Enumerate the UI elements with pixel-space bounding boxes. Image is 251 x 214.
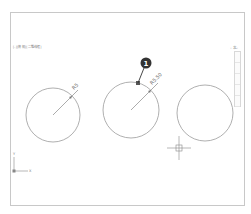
left-radius-line	[53, 96, 72, 115]
left-circle[interactable]: R5	[26, 82, 80, 142]
ucs-x-label: X	[29, 169, 32, 173]
crosshair-cursor-icon	[167, 136, 191, 160]
left-dimension-text[interactable]: R5	[70, 82, 79, 91]
ucs-y-label: Y	[13, 152, 16, 156]
middle-dimension-text[interactable]: R5.50	[148, 71, 163, 86]
middle-circle[interactable]: R5.50	[103, 71, 163, 138]
middle-radius-line	[131, 90, 151, 110]
drawing-canvas[interactable]: R5 R5.50 1 Y X	[0, 0, 251, 214]
callout-number: 1	[144, 60, 149, 68]
callout-leader-line	[138, 68, 144, 83]
ucs-icon: Y X	[13, 152, 33, 173]
right-circle[interactable]	[177, 85, 233, 141]
